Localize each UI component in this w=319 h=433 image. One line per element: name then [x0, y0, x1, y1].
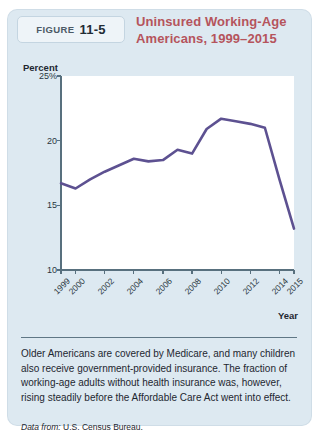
figure-card: FIGURE 11-5 Uninsured Working-Age Americ… — [8, 10, 311, 425]
figure-source: Data from: U.S. Census Bureau. — [21, 422, 299, 432]
figure-title-line-1: Uninsured Working-Age — [136, 14, 306, 31]
figure-tag-number: 11-5 — [80, 22, 106, 37]
source-lead-label: Data from: — [21, 422, 61, 432]
figure-number-badge: FIGURE 11-5 — [17, 16, 125, 43]
figure-caption: Older Americans are covered by Medicare,… — [21, 347, 299, 405]
figure-header: FIGURE 11-5 Uninsured Working-Age Americ… — [8, 10, 311, 58]
chart-panel: Percent Year 10152025% 19992000200220042… — [17, 60, 302, 322]
figure-title-line-2: Americans, 1999–2015 — [136, 31, 306, 48]
figure-title: Uninsured Working-Age Americans, 1999–20… — [136, 14, 306, 47]
source-text: U.S. Census Bureau. — [63, 422, 143, 432]
x-axis-tick-labels: 1999200020022004200620082010201220142015 — [17, 60, 302, 322]
figure-tag-label: FIGURE — [36, 24, 74, 35]
caption-divider — [21, 337, 297, 338]
